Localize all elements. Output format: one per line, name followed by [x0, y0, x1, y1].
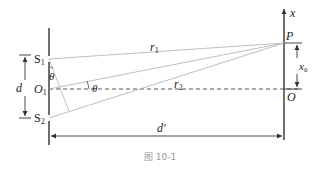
label-r2: r2 — [174, 77, 183, 92]
label-s1: S1 — [34, 52, 45, 67]
label-x0: x0 — [298, 60, 308, 74]
label-d: d — [16, 81, 23, 95]
label-theta-center: θ — [92, 82, 98, 94]
label-r1: r1 — [150, 40, 159, 55]
label-o1: O1 — [34, 82, 47, 97]
label-d-prime: d′ — [157, 121, 166, 135]
ray-r1 — [49, 43, 284, 59]
label-x-axis: x — [289, 6, 296, 20]
label-s2: S2 — [34, 111, 45, 126]
ray-center — [49, 43, 284, 89]
theta-arc-center — [87, 81, 89, 89]
rays — [49, 43, 284, 118]
ray-r2 — [49, 43, 284, 118]
label-p: P — [285, 29, 294, 43]
double-slit-diagram: S1 S2 O1 d θ θ r1 r2 P O x x0 d′ 图 10-1 — [0, 0, 321, 171]
label-theta-left: θ — [49, 70, 55, 82]
path-difference-perpendicular — [49, 59, 69, 111]
figure-caption: 图 10-1 — [144, 152, 176, 162]
label-o: O — [287, 90, 296, 104]
